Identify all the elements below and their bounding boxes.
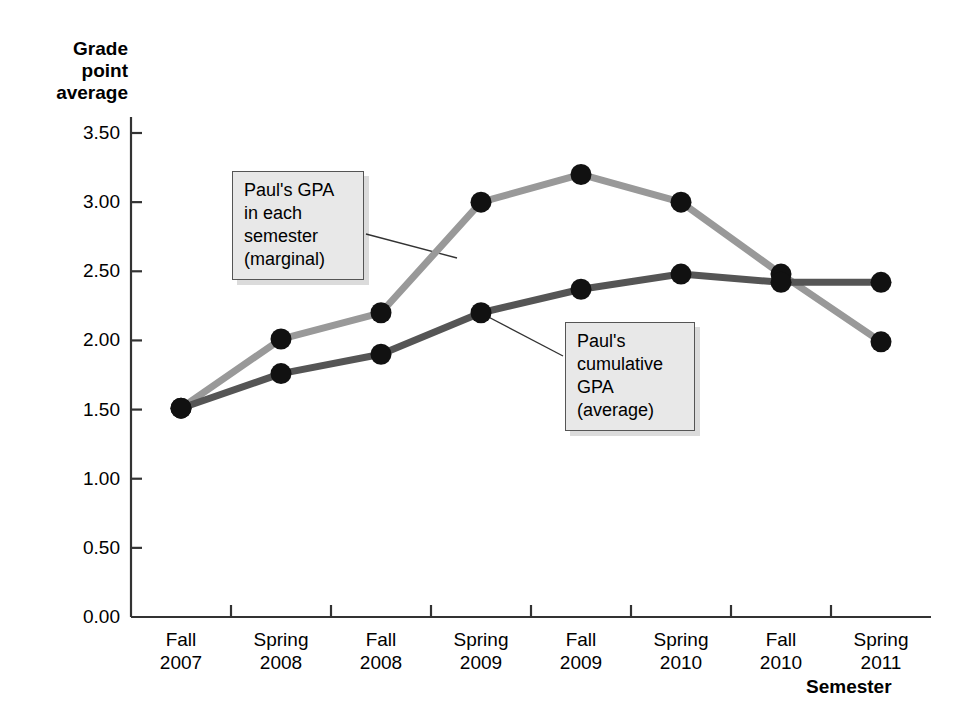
data-point-marker: [571, 279, 592, 300]
data-point-marker: [571, 164, 592, 185]
data-point-marker: [471, 302, 492, 323]
data-point-marker: [271, 363, 292, 384]
data-point-marker: [371, 302, 392, 323]
gpa-line-chart: Grade point average Semester 3.503.002.5…: [0, 0, 966, 723]
data-point-marker: [271, 329, 292, 350]
data-point-marker: [871, 331, 892, 352]
data-point-marker: [471, 192, 492, 213]
plot-area: [0, 0, 966, 723]
data-point-marker: [671, 192, 692, 213]
data-point-marker: [371, 344, 392, 365]
data-point-marker: [771, 272, 792, 293]
annotation-cumulative: Paul's cumulative GPA (average): [565, 322, 695, 431]
data-point-marker: [171, 398, 192, 419]
data-point-marker: [871, 272, 892, 293]
annotation-marginal: Paul's GPA in each semester (marginal): [232, 171, 364, 280]
data-point-marker: [671, 264, 692, 285]
